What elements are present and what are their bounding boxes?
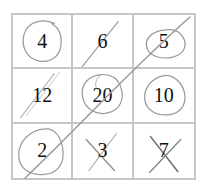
cell-value: 7 bbox=[159, 139, 169, 162]
cell-value: 3 bbox=[97, 139, 107, 162]
number-grid: 4 6 5 12 bbox=[11, 13, 196, 180]
top-cut-text bbox=[88, 0, 118, 6]
grid-cell-r2c1[interactable]: 12 bbox=[13, 69, 73, 123]
cell-value: 4 bbox=[37, 30, 47, 53]
cell-value: 5 bbox=[159, 30, 169, 53]
grid-cell-r2c3[interactable]: 10 bbox=[134, 69, 194, 123]
cell-value: 2 bbox=[37, 139, 47, 162]
grid-cell-r1c1[interactable]: 4 bbox=[13, 15, 73, 69]
grid-cell-r3c1[interactable]: 2 bbox=[13, 124, 73, 178]
cell-value: 6 bbox=[97, 30, 107, 53]
cell-value: 12 bbox=[32, 84, 52, 107]
grid-cell-r1c2[interactable]: 6 bbox=[73, 15, 133, 69]
cell-value: 20 bbox=[92, 84, 112, 107]
grid-container: 4 6 5 12 bbox=[11, 13, 196, 180]
grid-cell-r2c2[interactable]: 20 bbox=[73, 69, 133, 123]
worksheet-page: 4 6 5 12 bbox=[0, 0, 206, 188]
cell-value: 10 bbox=[154, 84, 174, 107]
grid-cell-r3c2[interactable]: 3 bbox=[73, 124, 133, 178]
grid-cell-r3c3[interactable]: 7 bbox=[134, 124, 194, 178]
grid-cell-r1c3[interactable]: 5 bbox=[134, 15, 194, 69]
